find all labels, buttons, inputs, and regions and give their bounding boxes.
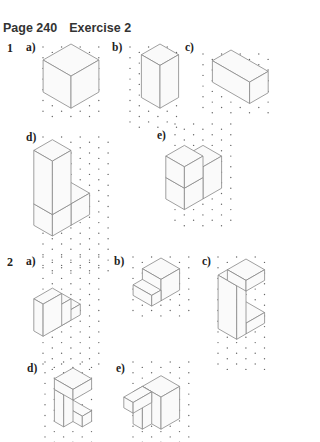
grid-dot	[267, 112, 268, 113]
grid-dot	[80, 168, 81, 169]
grid-dot	[132, 299, 133, 300]
grid-dot	[89, 358, 90, 359]
grid-dot	[179, 262, 180, 263]
grid-dot	[61, 243, 62, 244]
figure-1d	[34, 136, 109, 271]
grid-dot	[188, 278, 189, 279]
grid-dot	[80, 147, 81, 148]
grid-dot	[70, 270, 71, 271]
grid-dot	[98, 168, 99, 169]
grid-dot	[89, 163, 90, 164]
grid-dot	[221, 214, 222, 215]
grid-dot	[258, 107, 259, 108]
grid-dot	[221, 129, 222, 130]
grid-dot	[184, 214, 185, 215]
grid-dot	[212, 134, 213, 135]
grid-dot	[80, 256, 81, 257]
grid-dot	[89, 283, 90, 284]
grid-dot	[70, 337, 71, 338]
grid-dot	[264, 294, 265, 295]
grid-dot	[107, 142, 108, 143]
grid-dot	[98, 278, 99, 279]
grid-dot	[70, 358, 71, 359]
grid-dot	[230, 166, 231, 167]
grid-dot	[142, 315, 143, 316]
grid-dot	[212, 101, 213, 102]
figure-2b	[132, 256, 189, 316]
left-face	[218, 275, 237, 339]
grid-dot	[188, 436, 189, 437]
grid-dot	[70, 283, 71, 284]
grid-dot	[142, 367, 143, 368]
grid-dot	[174, 134, 175, 135]
grid-dot	[42, 278, 43, 279]
grid-dot	[98, 201, 99, 202]
grid-dot	[89, 116, 90, 117]
grid-dot	[80, 342, 81, 343]
grid-dot	[230, 112, 231, 113]
grid-dot	[236, 256, 237, 257]
grid-dot	[255, 331, 256, 332]
grid-dot	[139, 127, 140, 128]
grid-dot	[80, 233, 81, 234]
grid-dot	[160, 431, 161, 432]
grid-dot	[89, 270, 90, 271]
grid-dot	[80, 46, 81, 47]
grid-dot	[42, 136, 43, 137]
grid-dot	[98, 46, 99, 47]
grid-dot	[132, 361, 133, 362]
grid-dot	[227, 347, 228, 348]
grid-dot	[42, 265, 43, 266]
grid-dot	[230, 220, 231, 221]
grid-dot	[212, 145, 213, 146]
grid-dot	[217, 353, 218, 354]
grid-dot	[80, 288, 81, 289]
grid-dot	[42, 111, 43, 112]
grid-dot	[80, 136, 81, 137]
grid-dot	[70, 347, 71, 348]
label-1c: c)	[185, 41, 194, 53]
grid-dot	[151, 256, 152, 257]
grid-dot	[217, 267, 218, 268]
grid-dot	[82, 436, 83, 437]
grid-dot	[236, 353, 237, 354]
grid-dot	[139, 116, 140, 117]
grid-dot	[42, 100, 43, 101]
grid-dot	[44, 393, 45, 394]
grid-dot	[170, 310, 171, 311]
grid-dot	[54, 367, 55, 368]
grid-dot	[54, 431, 55, 432]
grid-dot	[255, 288, 256, 289]
grid-dot	[70, 227, 71, 228]
grid-dot	[89, 347, 90, 348]
grid-dot	[107, 217, 108, 218]
grid-dot	[179, 367, 180, 368]
grid-dot	[98, 310, 99, 311]
grid-dot	[107, 270, 108, 271]
grid-dot	[70, 142, 71, 143]
grid-dot	[193, 134, 194, 135]
grid-dot	[44, 436, 45, 437]
grid-dot	[264, 337, 265, 338]
grid-dot	[52, 262, 53, 263]
grid-dot	[245, 369, 246, 370]
grid-dot	[98, 100, 99, 101]
grid-dot	[80, 278, 81, 279]
grid-dot	[202, 75, 203, 76]
grid-dot	[70, 116, 71, 117]
grid-dot	[221, 204, 222, 205]
grid-dot	[227, 337, 228, 338]
grid-dot	[107, 195, 108, 196]
grid-dot	[184, 139, 185, 140]
grid-dot	[245, 337, 246, 338]
grid-dot	[80, 321, 81, 322]
grid-dot	[89, 52, 90, 53]
figure-1e	[166, 123, 232, 226]
grid-dot	[98, 211, 99, 212]
grid-dot	[42, 254, 43, 255]
label-1e: e)	[157, 129, 166, 141]
grid-dot	[52, 369, 53, 370]
grid-dot	[142, 377, 143, 378]
grid-dot	[249, 59, 250, 60]
grid-dot	[98, 254, 99, 255]
